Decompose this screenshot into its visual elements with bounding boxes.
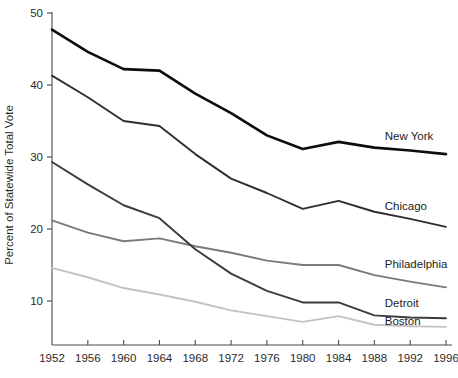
series-label-boston: Boston <box>385 315 421 327</box>
x-axis-tick-label: 1996 <box>433 352 458 364</box>
line-chart: 1020304050 19521956196019641968197219761… <box>0 0 458 378</box>
series-labels: New YorkChicagoPhiladelphiaDetroitBoston <box>385 130 448 328</box>
y-axis-title: Percent of Statewide Total Vote <box>3 105 15 265</box>
x-axis-tick-label: 1952 <box>39 352 65 364</box>
x-axis-tick-label: 1964 <box>147 352 173 364</box>
y-axis-tick-label: 30 <box>30 151 43 163</box>
y-axis-tick-label: 40 <box>30 79 43 91</box>
x-axis-tick-label: 1992 <box>397 352 423 364</box>
series-label-philadelphia: Philadelphia <box>385 258 448 270</box>
series-label-chicago: Chicago <box>385 200 427 212</box>
series-label-detroit: Detroit <box>385 297 420 309</box>
x-axis-tick-label: 1984 <box>326 352 352 364</box>
x-axis-tick-label: 1988 <box>362 352 388 364</box>
x-axis-tick-label: 1976 <box>254 352 280 364</box>
chart-container: 1020304050 19521956196019641968197219761… <box>0 0 458 378</box>
series-line-philadelphia <box>52 220 446 287</box>
y-axis-tick-label: 50 <box>30 7 43 19</box>
y-axis-tick-label: 10 <box>30 295 43 307</box>
series-label-new-york: New York <box>385 130 434 142</box>
x-axis-tick-label: 1960 <box>111 352 137 364</box>
y-axis: 1020304050 <box>30 7 52 345</box>
x-axis: 1952195619601964196819721976198019841988… <box>39 340 458 364</box>
series-lines <box>52 30 446 327</box>
y-axis-tick-label: 20 <box>30 223 43 235</box>
x-axis-tick-label: 1956 <box>75 352 101 364</box>
x-axis-tick-label: 1968 <box>182 352 208 364</box>
x-axis-tick-label: 1980 <box>290 352 316 364</box>
x-axis-tick-label: 1972 <box>218 352 244 364</box>
